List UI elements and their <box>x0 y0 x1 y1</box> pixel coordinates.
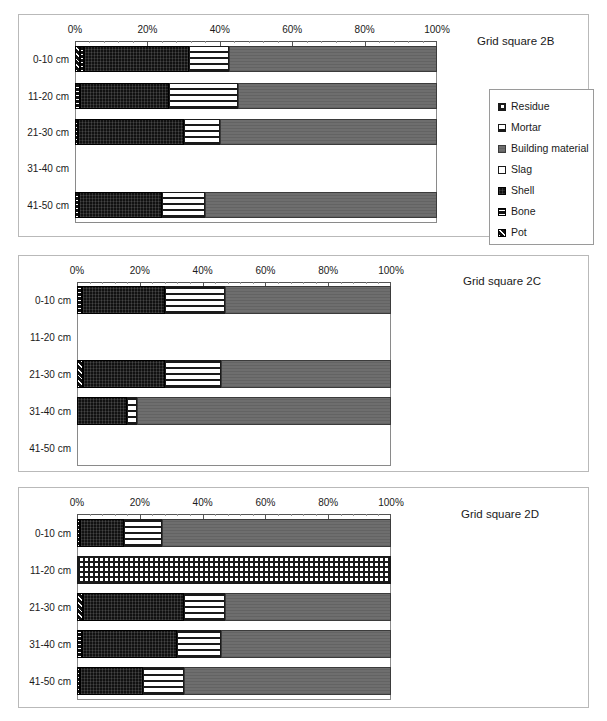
x-axis-tick-label: 80% <box>318 497 338 508</box>
x-axis-line <box>77 514 391 515</box>
bar-segment <box>225 593 391 621</box>
x-axis-tick-label: 80% <box>318 265 338 276</box>
x-axis-minor-tick <box>102 282 103 284</box>
legend-item-label: Slag <box>511 164 532 175</box>
bar-segment <box>77 397 127 425</box>
bar-segment <box>225 286 391 314</box>
legend-item[interactable]: Building material <box>498 138 585 159</box>
x-axis-minor-tick <box>341 282 342 284</box>
x-axis-tick-label: 80% <box>355 24 375 35</box>
x-axis-tick-label: 0% <box>70 497 84 508</box>
y-axis-category-label: 11-20 cm <box>28 90 69 101</box>
y-axis-category-label: 21-30 cm <box>29 602 71 613</box>
x-axis-tick-label: 100% <box>378 497 404 508</box>
x-axis-minor-tick <box>316 514 317 516</box>
bar-segment <box>189 46 229 72</box>
x-axis-line <box>77 282 391 283</box>
bar-segment <box>82 630 178 658</box>
bar-segment <box>80 667 143 695</box>
x-axis-minor-tick <box>253 514 254 516</box>
legend-swatch-icon <box>498 187 506 195</box>
legend-item[interactable]: Pot <box>498 222 585 243</box>
x-axis-minor-tick <box>303 282 304 284</box>
bar-segment <box>83 360 165 388</box>
x-axis-minor-tick <box>278 514 279 516</box>
chart-legend: ResidueMortarBuilding materialSlagShellB… <box>489 89 594 245</box>
bar-segment <box>229 46 437 72</box>
bar-segment <box>238 83 437 109</box>
x-axis-tick-label: 20% <box>130 265 150 276</box>
legend-item-label: Shell <box>511 185 534 196</box>
x-axis-minor-tick <box>228 514 229 516</box>
bar-segment <box>80 83 169 109</box>
x-axis-tick-label: 60% <box>282 24 302 35</box>
x-axis-minor-tick <box>378 514 379 516</box>
stacked-bar <box>75 119 437 145</box>
x-axis-minor-tick <box>341 514 342 516</box>
x-axis-minor-tick <box>366 282 367 284</box>
bar-segment <box>205 192 437 218</box>
x-axis-minor-tick <box>205 41 206 43</box>
stacked-bar <box>77 630 391 658</box>
y-axis-category-label: 41-50 cm <box>27 199 69 210</box>
x-axis-tick-label: 0% <box>68 24 82 35</box>
legend-item[interactable]: Mortar <box>498 117 585 138</box>
y-axis-category-label: 21-30 cm <box>29 369 71 380</box>
y-axis-category-label: 0-10 cm <box>35 295 71 306</box>
x-axis-minor-tick <box>316 282 317 284</box>
legend-swatch-icon <box>498 229 506 237</box>
stacked-bar <box>75 192 437 218</box>
y-axis-category-label: 41-50 cm <box>29 676 71 687</box>
legend-item[interactable]: Slag <box>498 159 585 180</box>
x-axis-minor-tick <box>350 41 351 43</box>
plot-area-2c: 0%20%40%60%80%100%0-10 cm11-20 cm21-30 c… <box>77 282 391 466</box>
y-axis-category-label: 31-40 cm <box>27 163 69 174</box>
x-axis-minor-tick <box>115 282 116 284</box>
x-axis-minor-tick <box>177 514 178 516</box>
x-axis-minor-tick <box>215 282 216 284</box>
x-axis-minor-tick <box>133 41 134 43</box>
stacked-bar <box>77 360 391 388</box>
bar-segment <box>184 119 220 145</box>
legend-item[interactable]: Shell <box>498 180 585 201</box>
legend-item-label: Mortar <box>511 122 541 133</box>
legend-item[interactable]: Residue <box>498 96 585 117</box>
y-axis-category-label: 31-40 cm <box>29 405 71 416</box>
bar-segment <box>184 667 391 695</box>
stacked-bar <box>75 83 437 109</box>
bar-segment <box>78 119 184 145</box>
x-axis-minor-tick <box>165 282 166 284</box>
x-axis-minor-tick <box>240 282 241 284</box>
x-axis-tick-label: 100% <box>378 265 404 276</box>
stacked-bar <box>77 667 391 695</box>
x-axis-minor-tick <box>366 514 367 516</box>
x-axis-tick-label: 20% <box>137 24 157 35</box>
legend-item-label: Building material <box>511 143 589 154</box>
bar-segment <box>220 119 437 145</box>
x-axis-minor-tick <box>423 41 424 43</box>
bar-segment <box>162 192 205 218</box>
stacked-bar <box>77 593 391 621</box>
bar-segment <box>137 397 391 425</box>
legend-item-label: Residue <box>511 101 550 112</box>
legend-swatch-icon <box>498 124 506 132</box>
legend-swatch-icon <box>498 208 506 216</box>
x-axis-minor-tick <box>278 282 279 284</box>
x-axis-minor-tick <box>90 514 91 516</box>
y-axis-category-label: 11-20 cm <box>30 564 71 575</box>
legend-item[interactable]: Bone <box>498 201 585 222</box>
x-axis-tick-label: 100% <box>424 24 450 35</box>
x-axis-minor-tick <box>115 514 116 516</box>
bar-segment <box>79 192 162 218</box>
chart-title-2d: Grid square 2D <box>461 508 539 520</box>
y-axis-category-label: 21-30 cm <box>27 127 69 138</box>
bar-segment <box>184 593 225 621</box>
x-axis-minor-tick <box>353 282 354 284</box>
chart-panel-2d: Grid square 2D 0%20%40%60%80%100%0-10 cm… <box>18 487 589 708</box>
chart-title-2b: Grid square 2B <box>477 35 554 47</box>
x-axis-minor-tick <box>336 41 337 43</box>
x-axis-tick-label: 40% <box>193 265 213 276</box>
bar-segment <box>162 519 391 547</box>
bar-segment <box>143 667 184 695</box>
x-axis-minor-tick <box>127 282 128 284</box>
